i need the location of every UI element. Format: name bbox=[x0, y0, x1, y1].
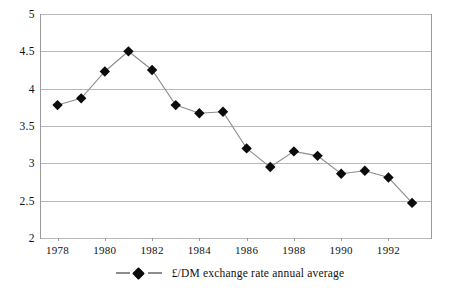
plot-area: 22.533.544.55 19781980198219841986198819… bbox=[40, 14, 432, 239]
legend-marker bbox=[116, 266, 162, 280]
data-point-marker bbox=[147, 65, 157, 75]
legend-line-right bbox=[148, 272, 162, 274]
legend-label: £/DM exchange rate annual average bbox=[172, 267, 345, 279]
data-point-marker bbox=[265, 162, 275, 172]
data-point-marker bbox=[194, 108, 204, 118]
data-series-layer bbox=[41, 14, 431, 238]
y-axis-tick-label: 2.5 bbox=[19, 195, 35, 207]
data-point-marker bbox=[360, 166, 370, 176]
data-point-marker bbox=[336, 169, 346, 179]
x-axis-tick-mark bbox=[152, 238, 153, 241]
x-axis-tick-label: 1980 bbox=[93, 244, 116, 256]
legend-line-left bbox=[116, 272, 130, 274]
data-point-marker bbox=[218, 107, 228, 117]
x-axis-tick-label: 1990 bbox=[330, 244, 353, 256]
x-axis-tick-label: 1982 bbox=[140, 244, 163, 256]
x-axis-tick-mark bbox=[58, 238, 59, 241]
x-axis-tick-mark bbox=[294, 238, 295, 241]
y-axis-tick-label: 3.5 bbox=[19, 120, 35, 132]
y-axis-tick-label: 3 bbox=[29, 157, 35, 169]
x-axis-tick-label: 1992 bbox=[377, 244, 400, 256]
x-axis-tick-mark bbox=[105, 238, 106, 241]
x-axis-tick-mark bbox=[388, 238, 389, 241]
diamond-marker-icon bbox=[132, 267, 145, 280]
x-axis-tick-label: 1978 bbox=[46, 244, 69, 256]
gridline bbox=[41, 238, 431, 239]
y-axis-tick-label: 4.5 bbox=[19, 45, 35, 57]
data-point-marker bbox=[241, 143, 251, 153]
data-point-marker bbox=[52, 100, 62, 110]
x-axis-tick-mark bbox=[341, 238, 342, 241]
x-axis-tick-mark bbox=[247, 238, 248, 241]
data-point-marker bbox=[289, 146, 299, 156]
data-point-marker bbox=[171, 100, 181, 110]
chart-container: 22.533.544.55 19781980198219841986198819… bbox=[0, 0, 460, 301]
y-axis-tick-label: 2 bbox=[29, 232, 35, 244]
data-point-marker bbox=[312, 151, 322, 161]
x-axis-tick-label: 1988 bbox=[282, 244, 305, 256]
series-line bbox=[58, 51, 413, 203]
x-axis-tick-label: 1986 bbox=[235, 244, 258, 256]
y-axis-tick-label: 4 bbox=[29, 83, 35, 95]
y-axis-tick-label: 5 bbox=[29, 8, 35, 20]
chart-legend: £/DM exchange rate annual average bbox=[0, 266, 460, 280]
x-axis-tick-label: 1984 bbox=[188, 244, 211, 256]
x-axis-tick-mark bbox=[199, 238, 200, 241]
